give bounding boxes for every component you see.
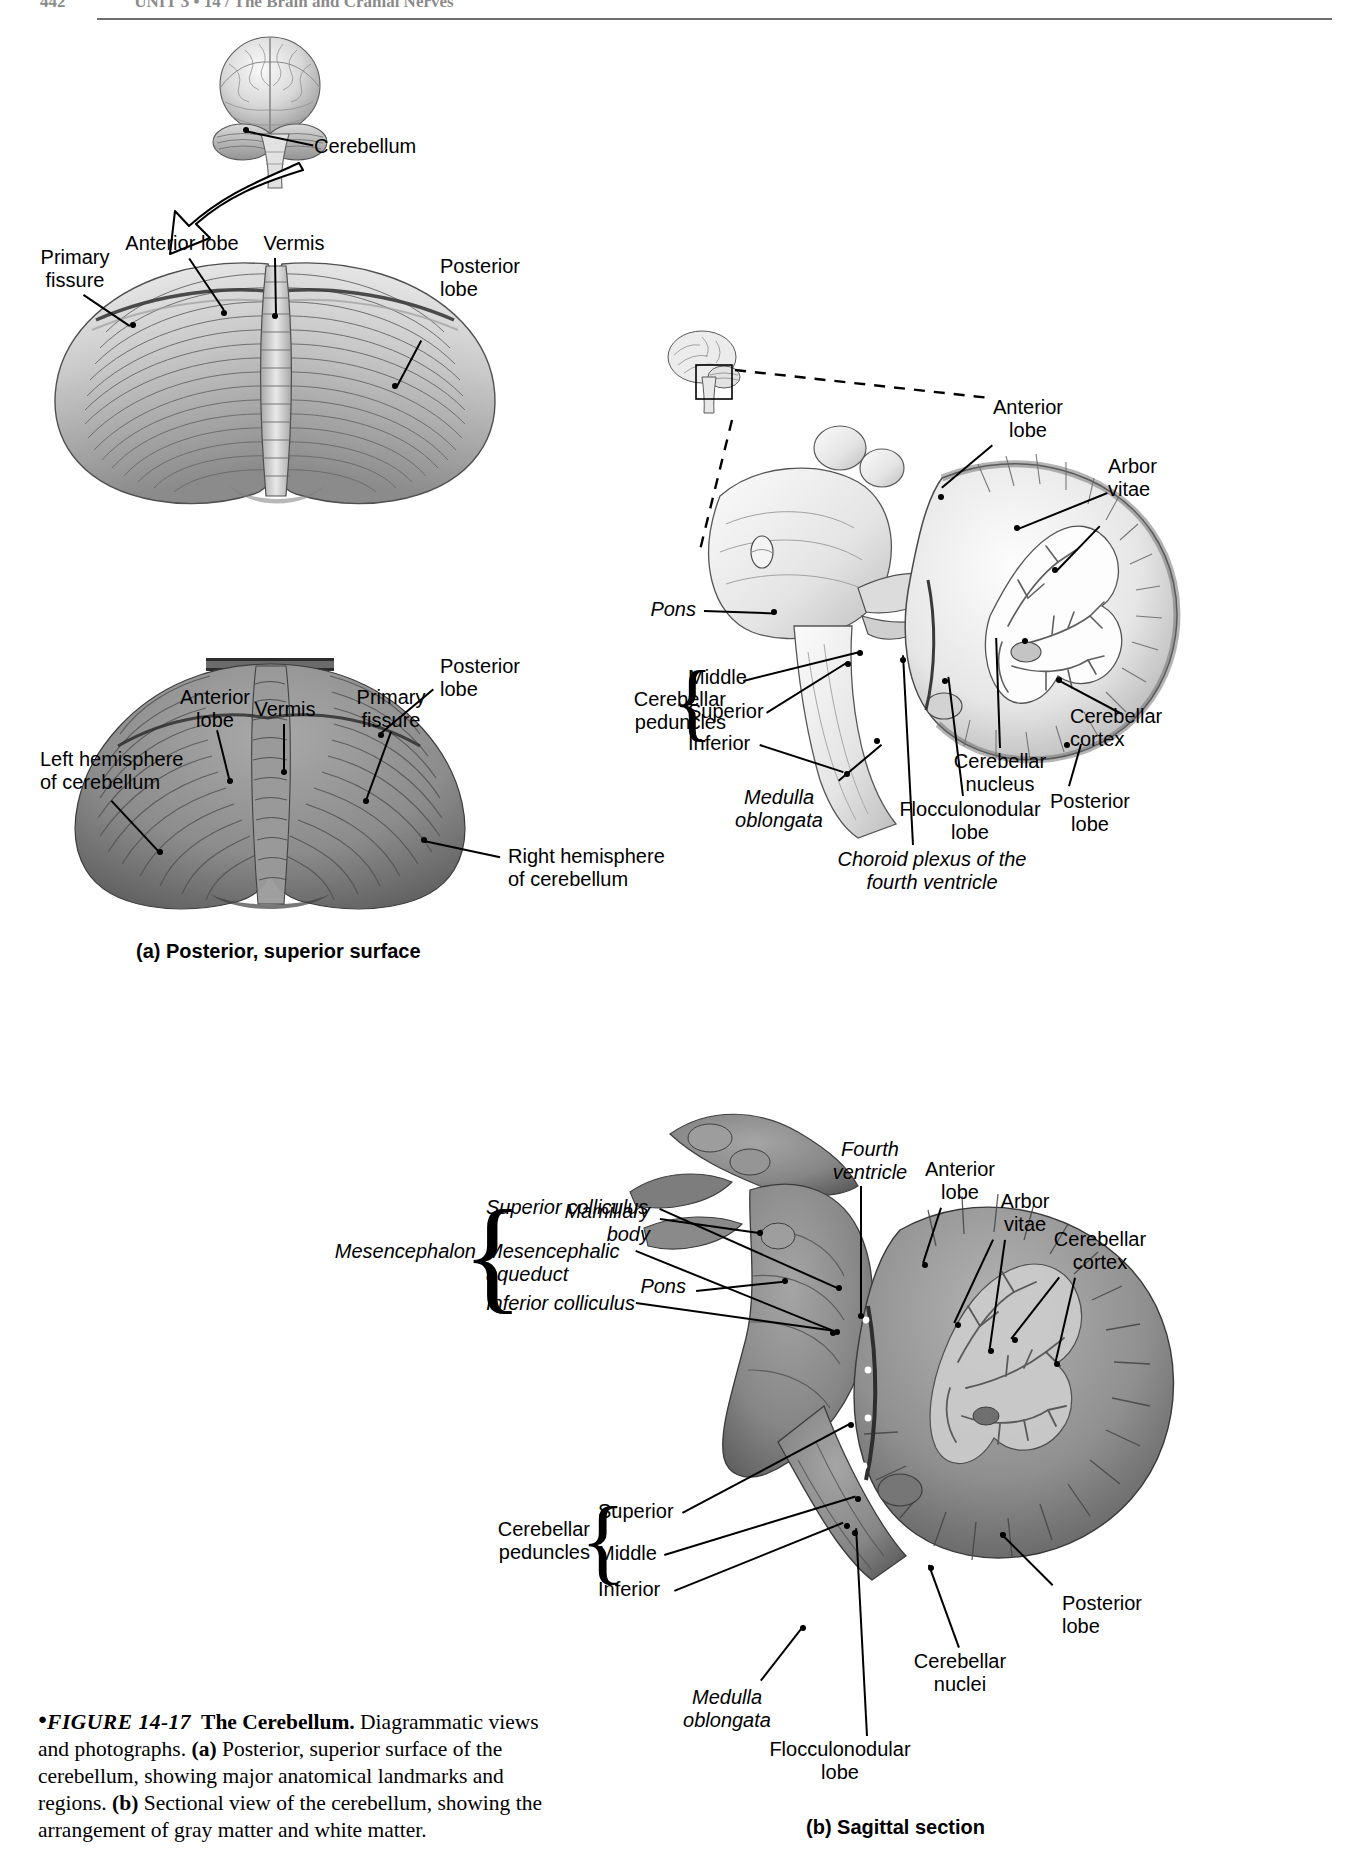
leader-dot-diagram-posterior-lobe — [392, 383, 398, 389]
caption-figure-title: The Cerebellum. — [201, 1710, 355, 1734]
leader-dot-sagittal-peduncle-middle — [857, 650, 863, 656]
sagittal-label-cerebellar-nucleus: Cerebellar nucleus — [930, 750, 1070, 796]
panel-b-title: (b) Sagittal section — [806, 1816, 985, 1839]
leader-dot-sagittal-posterior-lobe — [1064, 742, 1070, 748]
photo-label-posterior-lobe: Posterior lobe — [440, 655, 560, 701]
caption-figure-number: FIGURE 14-17 — [47, 1710, 191, 1734]
figure-page: 442 UNIT 3 • 14 / The Brain and Cranial … — [0, 0, 1365, 1850]
caption-bullet: ● — [38, 1711, 47, 1727]
leader-dot-b-medulla-oblongata — [800, 1625, 806, 1631]
leader-dot-sagittal-arbor-vitae-1 — [1014, 525, 1020, 531]
sagittal-label-medulla-oblongata: Medulla oblongata — [714, 786, 844, 832]
folio-number: 442 — [40, 0, 130, 12]
photo-label-b-cerebellar-cortex: Cerebellar cortex — [1030, 1228, 1170, 1274]
sagittal-label-anterior-lobe: Anterior lobe — [968, 396, 1088, 442]
leader-dot-sagittal-peduncle-inferior — [844, 771, 850, 777]
figure-caption: ●FIGURE 14-17The Cerebellum. Diagrammati… — [38, 1706, 568, 1844]
running-head-text: UNIT 3 • 14 / The Brain and Cranial Nerv… — [134, 0, 453, 11]
photo-label-b-flocculonodular-lobe: Flocculonodular lobe — [730, 1738, 950, 1784]
leader-dot-photo-vermis — [281, 769, 287, 775]
header-rule — [97, 18, 1332, 20]
diagram-label-posterior-lobe: Posterior lobe — [440, 255, 560, 301]
leader-dot-b-pons — [782, 1278, 788, 1284]
leader-dot-cerebellum — [243, 127, 249, 133]
leader-dot-b-arbor-vitae-2 — [988, 1348, 994, 1354]
leader-dot-b-mamillary-body — [757, 1230, 763, 1236]
photo-label-right-hemisphere: Right hemisphere of cerebellum — [508, 845, 698, 891]
leader-dot-photo-peduncle-inferior — [844, 1523, 850, 1529]
photo-label-b-pons: Pons — [576, 1275, 686, 1298]
leader-dot-sagittal-flocculonodular-lobe — [942, 678, 948, 684]
leader-dot-inferior-colliculus — [834, 1329, 840, 1335]
mesencephalon-title: Mesencephalon — [316, 1240, 476, 1263]
leader-dot-diagram-vermis — [272, 313, 278, 319]
leader-dot-photo-anterior-lobe — [227, 778, 233, 784]
photo-label-b-mamillary-body: Mamillary body — [500, 1200, 650, 1246]
leader-dot-b-cerebellar-cortex-2 — [1054, 1361, 1060, 1367]
photo-peduncle-inferior: Inferior — [598, 1578, 718, 1601]
leader-photo-vermis — [283, 724, 285, 772]
orientation-brain-art — [195, 30, 415, 220]
leader-dot-sagittal-cerebellar-nucleus — [1022, 638, 1028, 644]
leader-dot-diagram-primary-fissure — [130, 322, 136, 328]
caption-b-tag: (b) — [112, 1791, 138, 1815]
leader-dot-b-anterior-lobe — [922, 1262, 928, 1268]
photo-label-b-cerebellar-nuclei: Cerebellar nuclei — [880, 1650, 1040, 1696]
leader-dot-photo-peduncle-middle — [855, 1496, 861, 1502]
leader-dot-sagittal-peduncle-superior — [845, 661, 851, 667]
sagittal-label-flocculonodular-lobe: Flocculonodular lobe — [880, 798, 1060, 844]
leader-dot-photo-peduncle-superior — [848, 1422, 854, 1428]
sagittal-label-pons: Pons — [600, 598, 696, 621]
photo-label-left-hemisphere: Left hemisphere of cerebellum — [40, 748, 220, 794]
leader-fourth-ventricle — [860, 1186, 862, 1316]
leader-dot-b-arbor-vitae-1 — [955, 1322, 961, 1328]
running-head: 442 UNIT 3 • 14 / The Brain and Cranial … — [40, 0, 1330, 18]
leader-b-medulla-oblongata — [760, 1625, 804, 1681]
leader-dot-superior-colliculus — [836, 1285, 842, 1291]
photo-label-b-medulla-oblongata: Medulla oblongata — [652, 1686, 802, 1732]
diagram-label-vermis: Vermis — [246, 232, 342, 255]
leader-dot-sagittal-choroid-plexus — [900, 657, 906, 663]
label-cerebellum: Cerebellum — [314, 135, 416, 158]
photo-peduncle-middle: Middle — [598, 1542, 718, 1565]
photo-label-b-posterior-lobe: Posterior lobe — [1062, 1592, 1192, 1638]
diagram-label-anterior-lobe: Anterior lobe — [106, 232, 258, 255]
leader-dot-sagittal-pons — [771, 609, 777, 615]
sagittal-peduncle-superior: Superior — [688, 700, 808, 723]
leader-dot-photo-right-hemisphere — [421, 837, 427, 843]
leader-dot-photo-left-hemisphere — [157, 849, 163, 855]
leader-dot-sagittal-anterior-lobe — [938, 494, 944, 500]
leader-dot-b-cerebellar-cortex-1 — [1012, 1337, 1018, 1343]
leader-dot-photo-primary-fissure — [363, 798, 369, 804]
photo-label-vermis: Vermis — [240, 698, 330, 721]
sagittal-label-choroid-plexus: Choroid plexus of the fourth ventricle — [812, 848, 1052, 894]
leader-dot-b-posterior-lobe — [1000, 1532, 1006, 1538]
leader-dot-sagittal-cerebellar-cortex — [1056, 677, 1062, 683]
leader-dot-b-flocculonodular-lobe — [852, 1530, 858, 1536]
leader-dot-diagram-anterior-lobe — [221, 310, 227, 316]
sagittal-peduncle-inferior: Inferior — [688, 732, 808, 755]
photo-peduncles-title: Cerebellar peduncles — [440, 1518, 590, 1564]
leader-dot-b-cerebellar-nuclei — [928, 1565, 934, 1571]
leader-dot-sagittal-arbor-vitae-2 — [1052, 567, 1058, 573]
panel-a-title: (a) Posterior, superior surface — [136, 940, 421, 963]
leader-dot-photo-posterior-lobe — [378, 732, 384, 738]
leader-dot-fourth-ventricle — [858, 1313, 864, 1319]
leader-dot-sagittal-medulla-oblongata — [874, 738, 880, 744]
sagittal-label-arbor-vitae: Arbor vitae — [1108, 455, 1218, 501]
sagittal-label-cerebellar-cortex: Cerebellar cortex — [1070, 705, 1200, 751]
caption-a-tag: (a) — [191, 1737, 216, 1761]
